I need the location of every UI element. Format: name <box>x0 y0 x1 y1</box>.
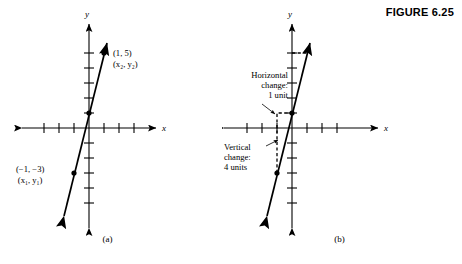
vertical-change-annotation: Vertical change: 4 units <box>224 142 288 172</box>
y-axis-label: y <box>84 9 89 19</box>
panel-b: x y Horizontal change: 1 unit Vertical c… <box>222 0 453 264</box>
plotted-line <box>267 43 310 216</box>
vertical-change-line-3: 4 units <box>224 162 288 172</box>
y-axis-label: y <box>287 9 292 19</box>
panel-b-label: (b) <box>224 234 455 244</box>
label-point-x1y1: (−1, −3) (x₁, y₁) <box>16 164 44 185</box>
x-axis-label: x <box>161 123 166 133</box>
data-point-x2y2 <box>101 50 106 55</box>
x-axis-label: x <box>383 123 388 133</box>
panel-a: x y (1, 5) (x₂, y₂) (−1, −3) (x₁, y₁) (a… <box>0 0 231 264</box>
label-point-x2y2-symbolic: (x₂, y₂) <box>113 59 138 70</box>
panel-a-label: (a) <box>0 234 223 244</box>
horizontal-change-annotation: Horizontal change: 1 unit <box>226 70 288 100</box>
label-point-x1y1-coords: (−1, −3) <box>16 164 44 175</box>
data-point-intercept <box>86 110 91 115</box>
data-point-x1y1 <box>71 170 76 175</box>
data-point-intercept <box>289 110 294 115</box>
label-point-x2y2: (1, 5) (x₂, y₂) <box>113 48 138 69</box>
horizontal-change-line-1: Horizontal <box>226 70 288 80</box>
horizontal-change-leader <box>262 104 275 114</box>
vertical-change-line-2: change: <box>224 152 288 162</box>
horizontal-change-line-2: change: <box>226 80 288 90</box>
label-point-x2y2-coords: (1, 5) <box>113 48 138 59</box>
plotted-line <box>64 43 107 216</box>
figure-page: FIGURE 6.25 <box>0 0 462 264</box>
graph-a-canvas: x y <box>0 0 231 240</box>
label-point-x1y1-symbolic: (x₁, y₁) <box>16 175 44 186</box>
vertical-change-line-1: Vertical <box>224 142 288 152</box>
horizontal-change-line-3: 1 unit <box>226 90 288 100</box>
graph-b-canvas: x y <box>222 0 453 240</box>
